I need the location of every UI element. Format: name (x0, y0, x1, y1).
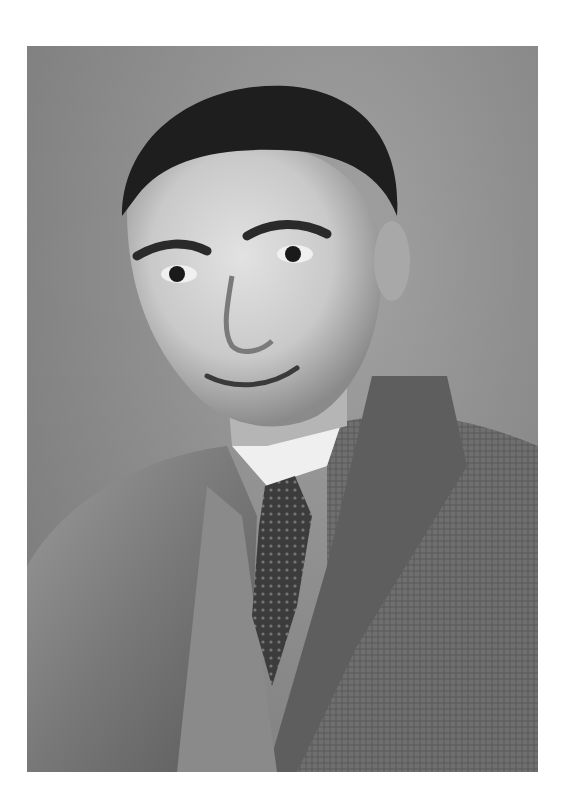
portrait-illustration (27, 46, 538, 772)
portrait-photo (27, 46, 538, 772)
ear (374, 221, 410, 301)
